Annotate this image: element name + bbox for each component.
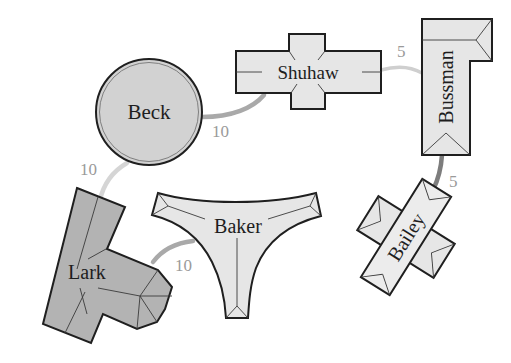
distance-label-beck-lark: 10: [80, 160, 97, 179]
distance-label-bussman-bailey: 5: [449, 172, 458, 191]
building-label-bussman: Bussman: [435, 50, 457, 123]
building-shuhaw[interactable]: Shuhaw: [236, 34, 381, 109]
building-label-beck: Beck: [127, 100, 171, 124]
building-diagram: Beck Shuhaw Bussman: [0, 0, 511, 363]
distance-label-lark-baker: 10: [175, 256, 192, 275]
distance-label-shuhaw-bussman: 5: [397, 42, 406, 61]
distance-label-beck-shuhaw: 10: [212, 122, 229, 141]
building-beck[interactable]: Beck: [96, 59, 202, 165]
path-beck-shuhaw: [202, 95, 264, 117]
path-bussman-bailey: [433, 155, 442, 190]
building-label-lark: Lark: [68, 261, 106, 283]
building-label-shuhaw: Shuhaw: [277, 62, 339, 83]
path-shuhaw-bussman: [381, 67, 422, 73]
path-beck-lark: [100, 163, 127, 200]
building-bussman[interactable]: Bussman: [422, 19, 492, 155]
building-label-baker: Baker: [214, 215, 262, 237]
